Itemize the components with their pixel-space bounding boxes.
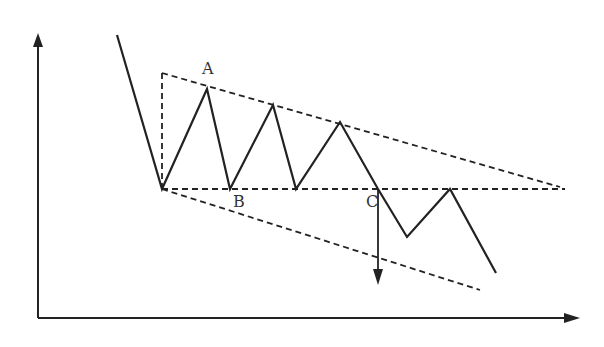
upper-trendline-dashed bbox=[162, 73, 560, 187]
label-b: B bbox=[233, 192, 245, 211]
down-arrow-icon bbox=[373, 269, 383, 285]
y-axis-arrow-icon bbox=[33, 33, 43, 47]
label-a: A bbox=[201, 59, 214, 78]
lower-projection-dashed bbox=[162, 189, 480, 290]
label-c: C bbox=[366, 192, 378, 211]
price-path bbox=[117, 35, 496, 273]
x-axis-arrow-icon bbox=[564, 313, 580, 323]
descending-triangle-diagram: A B C bbox=[0, 0, 604, 347]
